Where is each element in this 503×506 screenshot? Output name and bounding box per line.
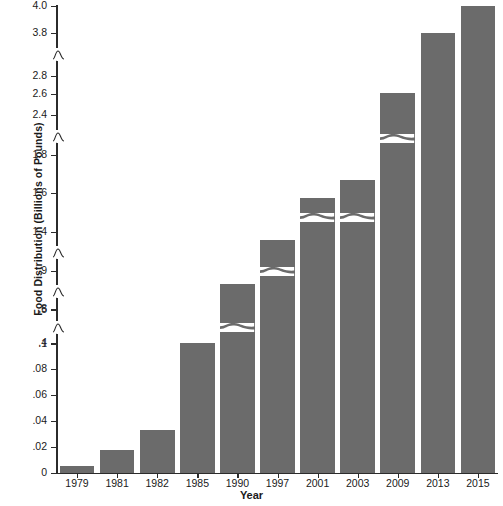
y-tick-label: .1 [7,338,47,349]
x-tick-label: 2003 [336,477,380,489]
y-tick-label: .9 [7,265,47,276]
bar[interactable] [421,33,456,473]
x-tick-label: 1990 [215,477,259,489]
bar[interactable] [461,6,496,473]
bars-layer [57,5,498,473]
y-tick-label: .5 [7,304,47,315]
x-tick-label: 2009 [376,477,420,489]
y-tick-label: .06 [7,389,47,400]
bar[interactable] [100,450,135,473]
bar[interactable] [260,240,295,473]
x-tick-label: 1982 [135,477,179,489]
x-tick-label: 2001 [296,477,340,489]
x-tick-label: 1985 [175,477,219,489]
y-tick-label: .08 [7,363,47,374]
y-tick-label: 2.6 [7,88,47,99]
x-axis-title: Year [0,489,503,501]
bar[interactable] [380,93,415,473]
x-tick-label: 2013 [416,477,460,489]
y-tick-label: .04 [7,415,47,426]
bar[interactable] [140,430,175,473]
y-tick-label: 2.4 [7,109,47,120]
bar[interactable] [340,180,375,473]
x-tick-label: 1997 [256,477,300,489]
bar-break-icon [340,208,375,217]
bar[interactable] [180,343,215,473]
y-tick-label: 0 [7,467,47,478]
bar-break-icon [380,129,415,138]
bar-break-icon [220,318,255,327]
bar-chart: Food Distribution (Billions of Pounds) Y… [0,0,503,506]
x-tick-label: 1979 [55,477,99,489]
y-tick-label: 1.6 [7,187,47,198]
y-tick-label: 4.0 [7,0,47,11]
y-tick-mark [51,473,57,474]
y-tick-label: 2.8 [7,70,47,81]
bar[interactable] [220,284,255,473]
y-tick-label: 1.8 [7,149,47,160]
bar-break-icon [300,208,335,217]
x-tick-label: 1981 [95,477,139,489]
bar[interactable] [300,198,335,473]
y-tick-label: 3.8 [7,27,47,38]
y-tick-label: 1.4 [7,226,47,237]
bar-break-icon [260,262,295,271]
bar[interactable] [60,466,95,473]
y-tick-label: .02 [7,441,47,452]
x-tick-label: 2015 [456,477,500,489]
